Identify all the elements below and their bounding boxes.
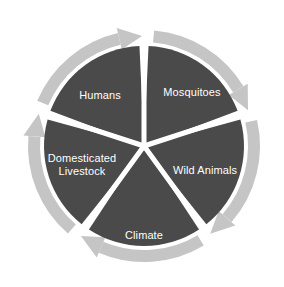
segment-label-climate: Climate <box>125 229 163 241</box>
cycle-diagram-canvas: MosquitoesWild AnimalsClimateDomesticate… <box>0 0 284 287</box>
cycle-diagram: MosquitoesWild AnimalsClimateDomesticate… <box>0 0 284 287</box>
segment-label-mosquitoes: Mosquitoes <box>163 86 221 98</box>
arrow-bottom-left-icon <box>23 114 45 138</box>
segment-label-humans: Humans <box>79 89 121 101</box>
segment-label-wild-animals: Wild Animals <box>173 164 238 176</box>
